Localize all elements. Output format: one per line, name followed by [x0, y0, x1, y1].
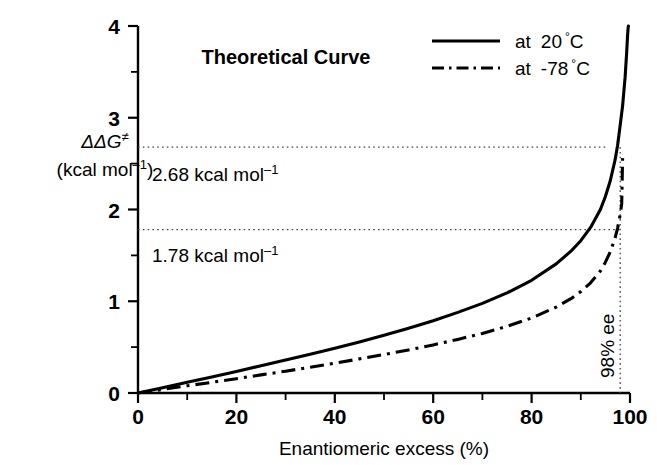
annotation-2-68-sup: –1	[264, 162, 278, 177]
legend-value-1: 20	[541, 31, 562, 52]
y-tick-label-2: 2	[108, 199, 120, 222]
y-axis-title-sup: ≠	[122, 129, 129, 144]
legend-value-2: -78	[541, 58, 568, 79]
y-axis-units-sup: –1	[133, 157, 147, 172]
x-tick-label-0: 0	[132, 405, 144, 428]
y-tick-label-4: 4	[108, 15, 120, 38]
y-tick-label-1: 1	[108, 290, 120, 313]
annotation-2-68-text: 2.68 kcal mol	[152, 164, 264, 185]
y-axis-units: (kcal mol	[57, 159, 133, 180]
legend-prefix-2: at	[515, 58, 532, 79]
chart-figure: 0 20 40 60 80 100 4 3 2 1 0 Enantiomeric…	[0, 0, 657, 465]
legend-unit-1: C	[570, 31, 584, 52]
annotation-1-78-sup: –1	[264, 243, 278, 258]
annotation-2-68: 2.68 kcal mol–1	[152, 162, 278, 185]
legend-unit-2: C	[576, 58, 590, 79]
y-tick-label-0: 0	[108, 382, 120, 405]
y-axis-title-line1: ΔΔG≠	[80, 129, 128, 152]
annotation-1-78-text: 1.78 kcal mol	[152, 245, 264, 266]
legend-prefix-1: at	[515, 31, 532, 52]
x-tick-label-40: 40	[323, 405, 346, 428]
x-tick-label-100: 100	[612, 405, 647, 428]
chart-title: Theoretical Curve	[202, 46, 371, 68]
x-tick-label-20: 20	[225, 405, 248, 428]
annotation-1-78: 1.78 kcal mol–1	[152, 243, 278, 266]
legend-entry-minus78C: at-78°C	[515, 57, 590, 79]
y-axis-title-main: ΔΔG	[80, 131, 121, 152]
legend-entry-20C: at20°C	[515, 30, 584, 52]
x-axis-title: Enantiomeric excess (%)	[279, 438, 489, 459]
y-tick-label-3: 3	[108, 107, 120, 130]
annotation-98-ee: 98% ee	[597, 314, 618, 378]
x-tick-label-80: 80	[520, 405, 543, 428]
x-tick-label-60: 60	[422, 405, 445, 428]
theoretical-curve-chart: 0 20 40 60 80 100 4 3 2 1 0 Enantiomeric…	[0, 0, 657, 465]
